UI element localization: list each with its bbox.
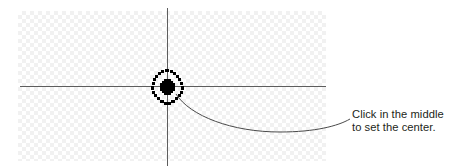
- callout-text: Click in the middle to set the center.: [352, 108, 454, 135]
- callout-leader-curve: [170, 90, 355, 140]
- callout-text-line-2: to set the center.: [352, 121, 454, 134]
- figure-root: Click in the middle to set the center.: [0, 0, 456, 166]
- callout-text-line-1: Click in the middle: [352, 108, 454, 121]
